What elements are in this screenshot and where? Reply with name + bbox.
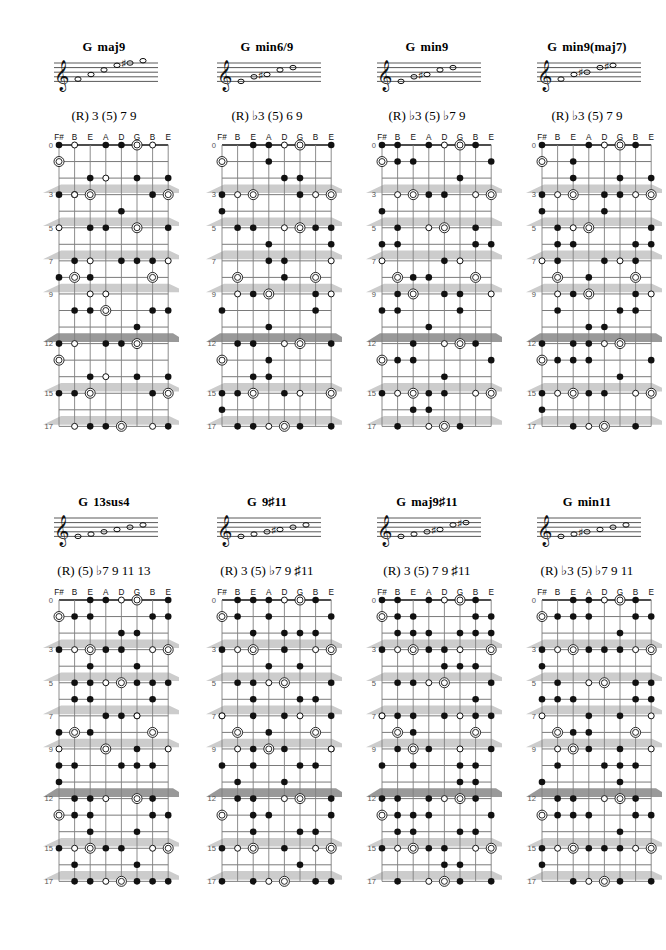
chord-tone-dot xyxy=(601,341,607,347)
fretboard-diagram[interactable]: F#BEADGBE03579121517 xyxy=(192,588,342,891)
scale-tone-dot xyxy=(570,291,577,298)
root-dot xyxy=(132,794,142,804)
root-dot xyxy=(537,355,547,365)
scale-tone-dot xyxy=(426,795,433,802)
root-dot xyxy=(163,645,173,655)
scale-tone-dot xyxy=(586,646,593,653)
scale-tone-dot xyxy=(281,175,288,182)
scale-tone-dot xyxy=(648,357,655,364)
chord-tone-dot xyxy=(457,647,463,653)
scale-tone-dot xyxy=(488,746,495,753)
svg-text:♯: ♯ xyxy=(432,525,437,535)
root-dot xyxy=(326,388,336,398)
scale-tone-dot xyxy=(219,191,226,198)
fretboard-diagram[interactable]: F#BEADGBE03579121517 xyxy=(512,588,662,891)
scale-tone-dot xyxy=(539,208,546,215)
scale-tone-dot xyxy=(250,812,257,819)
whole-note xyxy=(75,77,81,82)
scale-tone-dot xyxy=(379,307,386,314)
scale-tone-dot xyxy=(71,390,78,397)
chord-quality: min9(maj7) xyxy=(562,40,627,54)
scale-tone-dot xyxy=(312,878,319,885)
fret-number: 0 xyxy=(532,141,536,150)
scale-tone-dot xyxy=(488,357,495,364)
string-label: E xyxy=(648,133,654,142)
fret-number: 9 xyxy=(212,745,216,754)
scale-tone-dot xyxy=(648,696,655,703)
scale-tone-dot xyxy=(234,779,241,786)
fret-inlay xyxy=(366,838,502,847)
fret-inlay xyxy=(366,871,502,880)
string-label: E xyxy=(648,588,654,597)
root-dot xyxy=(615,794,625,804)
scale-tone-dot xyxy=(297,191,304,198)
scale-tone-dot xyxy=(234,679,241,686)
chord-card: G9♯11𝄞♯(R) 3 (5) ♭7 9 ♯11F#BEADGBE035791… xyxy=(185,495,349,891)
chord-tone-dot xyxy=(555,647,561,653)
scale-tone-dot xyxy=(250,224,257,231)
scale-tone-dot xyxy=(617,191,624,198)
fretboard-diagram[interactable]: F#BEADGBE03579121517 xyxy=(352,133,502,436)
scale-tone-dot xyxy=(570,597,577,604)
scale-tone-dot xyxy=(103,340,110,347)
scale-tone-dot xyxy=(149,812,156,819)
svg-text:𝄞: 𝄞 xyxy=(537,60,552,92)
scale-tone-dot xyxy=(488,613,495,620)
chord-formula: (R) ♭3 (5) ♭7 9 11 xyxy=(505,563,666,579)
chord-root: G xyxy=(563,495,573,509)
root-dot xyxy=(116,678,126,688)
scale-tone-dot xyxy=(426,646,433,653)
chord-tone-dot xyxy=(617,258,623,264)
fret-number: 5 xyxy=(212,679,216,688)
scale-tone-dot xyxy=(56,390,63,397)
whole-note xyxy=(114,63,120,68)
fret-number: 5 xyxy=(49,679,53,688)
fret-number: 9 xyxy=(532,745,536,754)
scale-tone-dot xyxy=(312,307,319,314)
scale-tone-dot xyxy=(586,729,593,736)
fret-number: 7 xyxy=(372,712,376,721)
fretboard-diagram[interactable]: F#BEADGBE03579121517 xyxy=(29,588,179,891)
string-label: B xyxy=(313,133,319,142)
chord-quality: min9 xyxy=(421,40,449,54)
fret-inlay xyxy=(206,788,342,797)
fret-number: 7 xyxy=(212,712,216,721)
whole-note xyxy=(251,532,257,537)
scale-tone-dot xyxy=(570,729,577,736)
fretboard-diagram[interactable]: F#BEADGBE03579121517 xyxy=(352,588,502,891)
scale-tone-dot xyxy=(539,142,546,149)
scale-tone-dot xyxy=(648,679,655,686)
root-dot xyxy=(455,595,465,605)
fret-inlay xyxy=(206,416,342,425)
scale-tone-dot xyxy=(312,762,319,769)
chord-tone-dot xyxy=(150,647,156,653)
root-dot xyxy=(377,355,387,365)
fret-number: 12 xyxy=(368,794,376,803)
chord-tone-dot xyxy=(539,713,545,719)
root-dot xyxy=(599,876,609,886)
fret-number: 5 xyxy=(532,224,536,233)
fret-inlay xyxy=(206,871,342,880)
fret-inlay xyxy=(526,217,662,226)
fretboard-container: F#BEADGBE03579121517 xyxy=(505,133,666,436)
staff-notation: 𝄞♯♯ xyxy=(531,57,643,103)
fretboard-diagram[interactable]: F#BEADGBE03579121517 xyxy=(512,133,662,436)
fretboard-diagram[interactable]: F#BEADGBE03579121517 xyxy=(192,133,342,436)
string-label: F# xyxy=(537,588,547,597)
scale-tone-dot xyxy=(219,878,226,885)
chord-card: Gmin9𝄞♯(R) ♭3 (5) ♭7 9F#BEADGBE035791215… xyxy=(345,40,509,436)
chord-tone-dot xyxy=(395,647,401,653)
chord-formula: (R) 3 (5) 7 9 ♯11 xyxy=(345,563,509,579)
scale-tone-dot xyxy=(457,762,464,769)
scale-tone-dot xyxy=(87,373,94,380)
chord-tone-dot xyxy=(601,796,607,802)
fretboard-diagram[interactable]: F#BEADGBE03579121517 xyxy=(29,133,179,436)
scale-tone-dot xyxy=(71,679,78,686)
fret-inlay xyxy=(206,184,342,193)
string-label: F# xyxy=(537,133,547,142)
root-dot xyxy=(132,339,142,349)
scale-tone-dot xyxy=(586,142,593,149)
scale-tone-dot xyxy=(648,241,655,248)
string-label: B xyxy=(633,133,639,142)
fretboard-container: F#BEADGBE03579121517 xyxy=(345,588,509,891)
